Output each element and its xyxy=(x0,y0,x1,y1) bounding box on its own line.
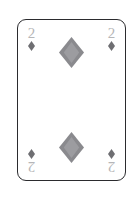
center-diamond-pip-icon-bottom xyxy=(59,132,84,163)
diamond-pip-icon-bottom-left xyxy=(28,149,35,159)
corner-rank-bottom-right: 2 xyxy=(103,160,120,174)
corner-index-bottom-right: 2 xyxy=(103,149,120,174)
center-diamond-pip-icon-top xyxy=(59,37,84,68)
corner-rank-top-left: 2 xyxy=(23,26,40,40)
playing-card-two-of-diamonds[interactable]: 2 2 2 xyxy=(17,19,126,181)
diamond-pip-icon-bottom-right xyxy=(108,149,115,159)
diamond-pip-icon-top-right xyxy=(108,41,115,51)
corner-rank-top-right: 2 xyxy=(103,26,120,40)
corner-index-bottom-left: 2 xyxy=(23,149,40,174)
corner-index-top-right: 2 xyxy=(103,26,120,51)
card-stage: 2 2 2 xyxy=(0,0,138,201)
diamond-pip-icon-top-left xyxy=(28,41,35,51)
corner-index-top-left: 2 xyxy=(23,26,40,51)
corner-rank-bottom-left: 2 xyxy=(23,160,40,174)
